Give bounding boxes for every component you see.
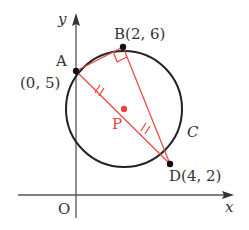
point-b-label: B(2, 6) [114,25,165,43]
point-a-label: A [55,52,67,70]
y-axis-label: y [57,10,67,28]
equal-marks-ap [95,85,104,96]
y-axis [72,13,80,218]
point-p [121,106,127,112]
segment-ad [76,71,170,164]
triangle-abd [76,47,170,164]
point-b [120,44,126,50]
point-d-label: D(4, 2) [169,167,221,185]
x-axis-label: x [225,198,234,216]
origin-label: O [58,200,70,218]
center-p-label: P [112,115,122,133]
point-a [73,68,79,74]
coordinate-diagram: y x O A (0, 5) B(2, 6) D(4, 2) P C [0,0,249,230]
point-a-coord-label: (0, 5) [20,74,60,92]
equal-marks-pd [141,123,150,134]
x-axis [18,191,234,199]
right-angle-mark [113,52,127,62]
segment-bd [123,47,170,164]
circle-c-label: C [187,123,199,141]
